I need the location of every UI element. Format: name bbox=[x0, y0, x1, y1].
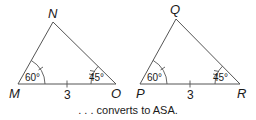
angle-label-m: 60° bbox=[25, 72, 40, 83]
vertex-label-n: N bbox=[48, 6, 58, 21]
caption: . . . converts to ASA. bbox=[78, 104, 178, 116]
triangle-pqr: Q P R 60° 45° 3 bbox=[136, 2, 246, 102]
side-label-mo: 3 bbox=[64, 88, 71, 102]
vertex-label-p: P bbox=[136, 86, 145, 101]
congruence-diagram: N M O 60° 45° 3 Q P R 60° 45° 3 . . . co… bbox=[0, 0, 256, 120]
vertex-label-o: O bbox=[111, 86, 121, 101]
angle-label-o: 45° bbox=[89, 72, 104, 83]
vertex-label-q: Q bbox=[170, 2, 180, 17]
angle-label-p: 60° bbox=[147, 72, 162, 83]
vertex-label-r: R bbox=[237, 86, 246, 101]
side-label-pr: 3 bbox=[187, 88, 194, 102]
triangle-mno: N M O 60° 45° 3 bbox=[9, 6, 121, 102]
vertex-label-m: M bbox=[9, 86, 20, 101]
angle-label-r: 45° bbox=[213, 72, 228, 83]
